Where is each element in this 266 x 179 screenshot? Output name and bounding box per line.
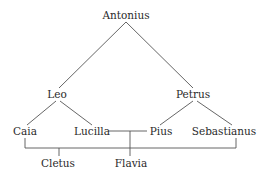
edge-petrus-pius xyxy=(160,101,193,125)
edge-petrus-sebastianus xyxy=(197,101,232,125)
node-sebastianus: Sebastianus xyxy=(192,125,257,137)
edge-antonius-leo xyxy=(59,22,126,88)
edge-antonius-petrus xyxy=(126,22,193,88)
node-lucilla: Lucilla xyxy=(74,125,110,137)
edge-leo-lucilla xyxy=(60,101,92,125)
edge-leo-caia xyxy=(27,101,56,125)
node-cletus: Cletus xyxy=(41,157,75,169)
node-flavia: Flavia xyxy=(115,157,147,169)
family-tree-diagram: Antonius Leo Petrus Caia Lucilla Pius Se… xyxy=(0,0,266,179)
node-antonius: Antonius xyxy=(102,9,149,21)
node-petrus: Petrus xyxy=(176,88,210,100)
node-leo: Leo xyxy=(47,88,67,100)
marriage-caia-sebastianus xyxy=(25,138,236,148)
node-caia: Caia xyxy=(13,125,37,137)
node-pius: Pius xyxy=(150,125,173,137)
tree-connector-lines xyxy=(0,0,266,179)
